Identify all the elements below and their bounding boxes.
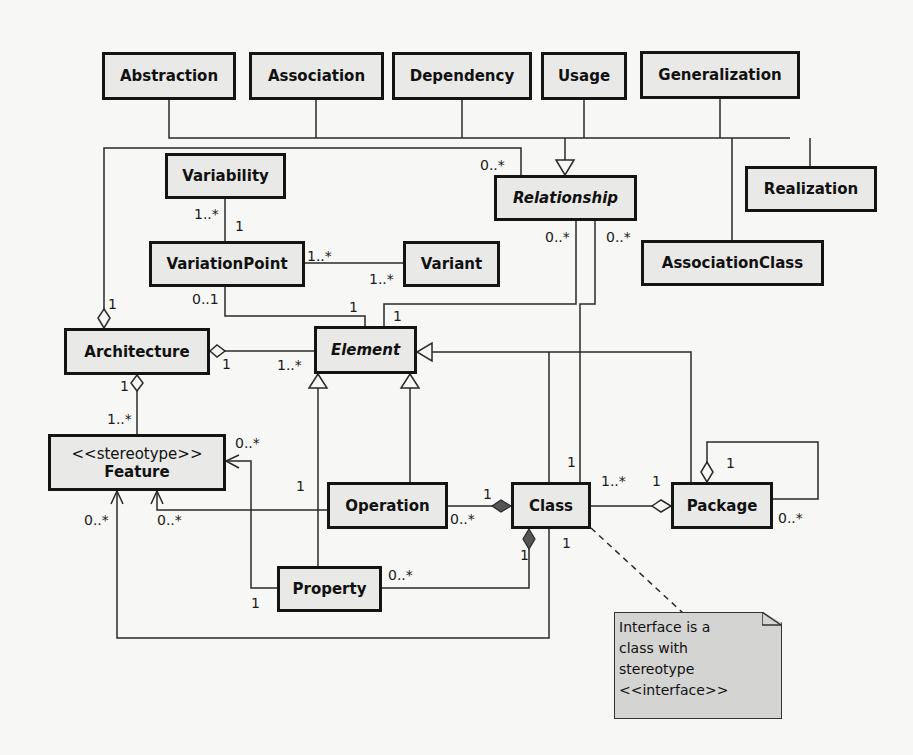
- multiplicity-label: 1: [393, 309, 402, 323]
- multiplicity-label: 0..*: [778, 511, 803, 525]
- multiplicity-label: 0..1: [192, 292, 219, 306]
- class-name: Operation: [345, 497, 429, 515]
- multiplicity-label: 1..*: [369, 272, 394, 286]
- class-name: AssociationClass: [662, 254, 803, 272]
- class-name: Usage: [558, 67, 610, 85]
- generalization-arrow-element-bottom-right: [401, 374, 419, 388]
- note-line: <<interface>>: [619, 680, 777, 701]
- class-box-usage[interactable]: Usage: [541, 52, 627, 100]
- class-name: Relationship: [513, 189, 618, 207]
- class-box-association-class[interactable]: AssociationClass: [641, 240, 824, 286]
- class-name: Package: [687, 497, 758, 515]
- class-box-feature[interactable]: <<stereotype>>Feature: [48, 434, 226, 491]
- multiplicity-label: 1..*: [307, 249, 332, 263]
- note-fold-corner-icon: [762, 612, 782, 626]
- class-name: Feature: [104, 463, 169, 481]
- class-box-realization[interactable]: Realization: [745, 166, 877, 212]
- class-box-element[interactable]: Element: [314, 326, 417, 374]
- class-name: Architecture: [84, 343, 189, 361]
- multiplicity-label: 0..*: [157, 513, 182, 527]
- multiplicity-label: 1: [251, 596, 260, 610]
- note-line: Interface is a: [619, 617, 777, 638]
- interface-note: Interface is a class with stereotype <<i…: [614, 612, 782, 719]
- multiplicity-label: 1: [483, 487, 492, 501]
- multiplicity-label: 0..*: [480, 158, 505, 172]
- association-property-feature: [226, 461, 277, 588]
- class-box-generalization[interactable]: Generalization: [640, 51, 800, 99]
- multiplicity-label: 1: [120, 379, 129, 393]
- class-name: Abstraction: [120, 67, 218, 85]
- note-line: class with: [619, 638, 777, 659]
- class-stereotype: <<stereotype>>: [72, 445, 203, 463]
- class-name: Dependency: [410, 67, 514, 85]
- note-line: stereotype: [619, 659, 777, 680]
- aggregation-diamond-package-left: [652, 500, 671, 512]
- multiplicity-label: 1: [520, 548, 529, 562]
- multiplicity-label: 1..*: [194, 207, 219, 221]
- multiplicity-label: 1..*: [277, 358, 302, 372]
- aggregation-diamond-package-top: [701, 462, 713, 482]
- multiplicity-label: 0..*: [606, 230, 631, 244]
- multiplicity-label: 1: [562, 536, 571, 550]
- class-name: Variant: [421, 255, 482, 273]
- class-box-relationship[interactable]: Relationship: [494, 175, 637, 221]
- generalization-arrow-relationship: [556, 160, 574, 175]
- class-box-dependency[interactable]: Dependency: [392, 52, 532, 100]
- class-box-abstraction[interactable]: Abstraction: [102, 52, 236, 100]
- class-name: VariationPoint: [166, 255, 287, 273]
- class-box-variability[interactable]: Variability: [165, 153, 286, 199]
- multiplicity-label: 1: [349, 300, 358, 314]
- multiplicity-label: 1..*: [601, 474, 626, 488]
- class-box-association[interactable]: Association: [249, 52, 384, 100]
- class-box-property[interactable]: Property: [277, 566, 382, 612]
- multiplicity-label: 0..*: [388, 568, 413, 582]
- class-box-variant[interactable]: Variant: [403, 241, 500, 287]
- class-name: Generalization: [658, 66, 781, 84]
- class-box-variation-point[interactable]: VariationPoint: [149, 241, 305, 287]
- class-name: Association: [268, 67, 365, 85]
- class-name: Class: [529, 497, 573, 515]
- generalization-arrow-element-right: [417, 343, 432, 361]
- class-box-package[interactable]: Package: [671, 482, 773, 529]
- multiplicity-label: 1: [222, 357, 231, 371]
- composition-diamond-class-left: [492, 500, 511, 512]
- multiplicity-label: 0..*: [235, 436, 260, 450]
- multiplicity-label: 1: [296, 479, 305, 493]
- generalization-class-package-element: [432, 352, 691, 482]
- class-name: Property: [293, 580, 367, 598]
- generalization-abstraction-relationship: [169, 100, 790, 138]
- multiplicity-label: 0..*: [450, 512, 475, 526]
- multiplicity-label: 1: [108, 297, 117, 311]
- note-anchor-line: [591, 528, 683, 613]
- multiplicity-label: 0..*: [84, 513, 109, 527]
- multiplicity-label: 1: [567, 455, 576, 469]
- multiplicity-label: 0..*: [545, 230, 570, 244]
- association-variationpoint-element: [225, 287, 365, 326]
- class-box-class[interactable]: Class: [511, 482, 591, 529]
- class-name: Variability: [182, 167, 269, 185]
- class-name: Realization: [764, 180, 858, 198]
- generalization-arrow-element-bottom-left: [309, 374, 327, 388]
- multiplicity-label: 1: [235, 219, 244, 233]
- composition-diamond-class-bottom: [523, 529, 535, 549]
- class-box-architecture[interactable]: Architecture: [64, 328, 210, 375]
- multiplicity-label: 1: [726, 456, 735, 470]
- multiplicity-label: 1: [652, 474, 661, 488]
- class-box-operation[interactable]: Operation: [327, 482, 448, 529]
- aggregation-diamond-architecture-bottom: [131, 375, 143, 391]
- multiplicity-label: 1..*: [107, 412, 132, 426]
- class-name: Element: [331, 341, 400, 359]
